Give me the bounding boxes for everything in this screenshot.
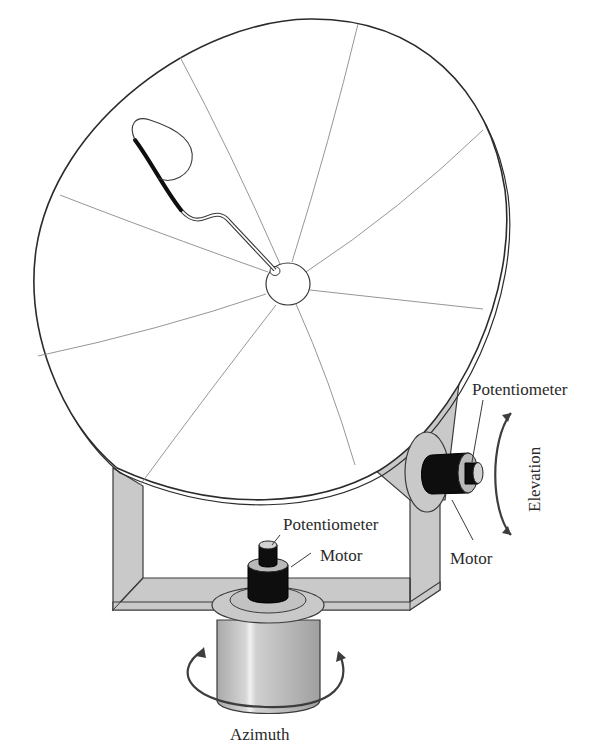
label-elevation-potentiometer: Potentiometer — [472, 380, 568, 399]
leader-azimuth-motor — [291, 553, 311, 567]
antenna-diagram: Potentiometer Motor Elevation Potentiome… — [0, 0, 611, 752]
elevation-arrow — [495, 413, 511, 535]
azimuth-pedestal — [217, 620, 320, 714]
leader-elevation-potentiometer — [472, 400, 483, 462]
label-elevation: Elevation — [525, 446, 544, 512]
label-elevation-motor: Motor — [450, 549, 493, 568]
leader-elevation-motor — [452, 500, 473, 540]
label-azimuth-potentiometer: Potentiometer — [283, 515, 379, 534]
azimuth-assembly — [212, 541, 324, 714]
label-azimuth: Azimuth — [230, 725, 290, 744]
label-azimuth-motor: Motor — [320, 546, 363, 565]
